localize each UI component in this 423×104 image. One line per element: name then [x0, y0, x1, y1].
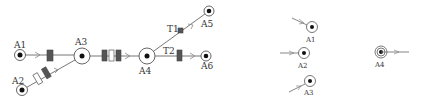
node-a6[interactable]	[201, 51, 211, 61]
block-t1	[178, 28, 183, 33]
arrow-a4-a5-icon	[188, 24, 193, 29]
node-a3[interactable]	[74, 48, 90, 64]
legend-node-a3	[305, 76, 316, 87]
legend-label-a3: A3	[303, 89, 314, 97]
label-a3: A3	[74, 37, 87, 47]
block-a1-a3-dark	[47, 50, 53, 61]
node-a2[interactable]	[17, 85, 28, 96]
node-a5[interactable]	[204, 6, 214, 16]
node-a4[interactable]	[139, 48, 155, 64]
network-diagram: A1 A2 A3 A4 A5 A6 T1 T2 A1 A2 A	[0, 0, 423, 104]
block-a3-a4-light	[109, 50, 114, 61]
label-a5: A5	[200, 19, 213, 29]
legend-node-a1	[307, 22, 318, 33]
label-a1: A1	[13, 40, 26, 50]
legend-label-a2: A2	[297, 62, 308, 70]
legend-label-a4: A4	[374, 61, 385, 69]
block-t2	[177, 50, 182, 61]
legend: A1 A2 A3 A4	[280, 18, 409, 97]
legend-label-a1: A1	[305, 36, 316, 44]
main-network: A1 A2 A3 A4 A5 A6 T1 T2	[11, 6, 214, 96]
legend-node-a2	[299, 48, 310, 59]
block-a3-a4-dark-2	[116, 50, 121, 61]
block-a2-a3-dark	[41, 67, 51, 79]
label-a4: A4	[138, 66, 151, 76]
label-t2: T2	[163, 46, 175, 56]
label-a6: A6	[200, 61, 213, 71]
label-a2: A2	[11, 76, 24, 86]
node-a1[interactable]	[15, 50, 26, 61]
block-a3-a4-dark-1	[102, 50, 107, 61]
label-t1: T1	[167, 24, 179, 34]
